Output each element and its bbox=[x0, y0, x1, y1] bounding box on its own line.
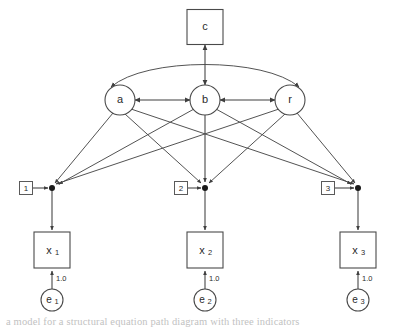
node-label-e3-subscript: 3 bbox=[360, 297, 364, 306]
node-label-e2: e bbox=[199, 294, 205, 305]
node-box-x3 bbox=[340, 232, 376, 268]
node-label-e1: e bbox=[46, 294, 52, 305]
node-label-x1: x bbox=[46, 244, 52, 256]
edge-b-to-junction-1 bbox=[59, 109, 194, 184]
node-label-x3: x bbox=[352, 244, 358, 256]
edge-label-e3-weight: 1.0 bbox=[362, 274, 372, 283]
node-label-x3-subscript: 3 bbox=[361, 248, 365, 257]
node-label-c: c bbox=[202, 20, 208, 32]
junction-dot-3 bbox=[355, 185, 361, 191]
node-label-x1-subscript: 1 bbox=[55, 248, 59, 257]
node-circle-e1 bbox=[41, 289, 63, 311]
edge-r-to-junction-1 bbox=[56, 109, 279, 184]
edge-r-to-junction-2 bbox=[209, 114, 285, 183]
diagram-canvas: c a b r 1 2 3 x 1 x 2 x 3 1.0 1.0 1.0 bbox=[0, 0, 395, 328]
edge-label-e2-weight: 1.0 bbox=[209, 274, 219, 283]
node-label-b: b bbox=[202, 93, 208, 105]
edge-b-to-junction-3 bbox=[216, 109, 351, 184]
figure-caption: a model for a structural equation path d… bbox=[0, 315, 395, 328]
node-box-x1 bbox=[34, 232, 70, 268]
junction-dot-1 bbox=[49, 185, 55, 191]
edge-a-to-junction-1 bbox=[55, 113, 113, 183]
edge-label-e1-weight: 1.0 bbox=[56, 274, 66, 283]
node-label-r: r bbox=[288, 93, 292, 105]
node-circle-e3 bbox=[347, 289, 369, 311]
node-label-a: a bbox=[117, 93, 124, 105]
edge-r-to-junction-3 bbox=[297, 113, 355, 183]
edge-a-to-junction-3 bbox=[131, 109, 354, 184]
node-label-one: 1 bbox=[24, 184, 29, 193]
junction-dot-2 bbox=[202, 185, 208, 191]
node-circle-e2 bbox=[194, 289, 216, 311]
node-label-x2-subscript: 2 bbox=[208, 248, 212, 257]
node-label-x2: x bbox=[199, 244, 205, 256]
node-label-e3: e bbox=[352, 294, 358, 305]
node-box-x2 bbox=[187, 232, 223, 268]
node-label-e1-subscript: 1 bbox=[54, 297, 58, 306]
path-diagram-figure: c a b r 1 2 3 x 1 x 2 x 3 1.0 1.0 1.0 bbox=[0, 0, 395, 328]
node-label-two: 2 bbox=[179, 184, 184, 193]
node-label-three: 3 bbox=[326, 184, 331, 193]
node-label-e2-subscript: 2 bbox=[207, 297, 211, 306]
